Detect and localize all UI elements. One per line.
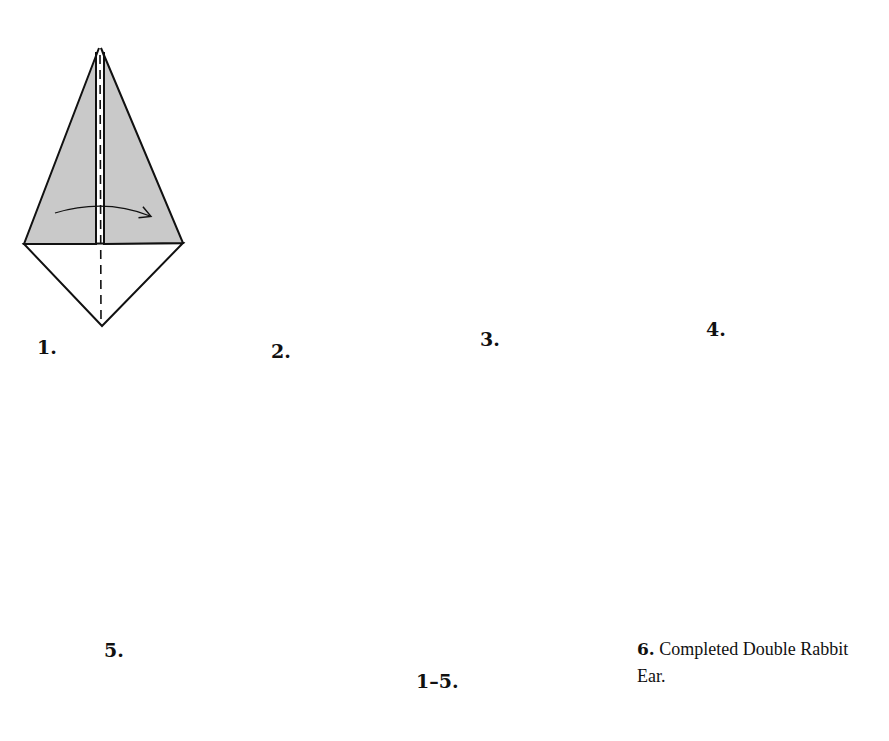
kite-right-half bbox=[101, 48, 183, 244]
kite-left-half bbox=[24, 48, 99, 244]
valley-fold-line bbox=[100, 55, 101, 322]
step-1-figure bbox=[24, 48, 183, 326]
final-caption-text: Completed Double Rabbit Ear. bbox=[637, 639, 848, 686]
final-caption: 6. Completed Double Rabbit Ear. bbox=[637, 636, 867, 690]
final-caption-number: 6. bbox=[637, 639, 655, 659]
origami-diagram bbox=[0, 0, 889, 741]
step-label-2: 2. bbox=[271, 340, 291, 362]
kite-bottom-flap bbox=[24, 243, 183, 326]
step-label-5: 5. bbox=[104, 639, 124, 661]
step-label-3: 3. bbox=[480, 328, 500, 350]
step-label-1-5: 1–5. bbox=[416, 670, 459, 692]
step-label-1: 1. bbox=[37, 336, 57, 358]
step-label-4: 4. bbox=[706, 318, 726, 340]
